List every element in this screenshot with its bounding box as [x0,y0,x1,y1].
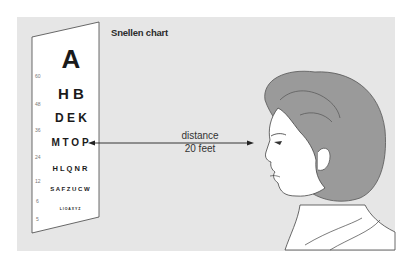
row-label-4: 24 [35,154,41,160]
person-profile-illustration [265,71,395,250]
distance-label-line1: distance [150,130,250,142]
chart-row-3: D E K [49,111,93,125]
chart-row-5: H L Q N R [47,164,93,173]
row-label-7: 5 [36,216,39,222]
chart-title: Snellen chart [111,27,168,38]
row-label-2: 48 [35,101,41,107]
row-label-6: 6 [36,198,39,204]
distance-label: distance 20 feet [150,130,250,155]
chart-row-7: L I O A X Y Z [47,207,93,211]
chart-row-4: M T O P [47,137,93,148]
row-label-5: 12 [35,178,41,184]
chart-row-2: H B [51,85,91,102]
row-label-3: 36 [35,127,41,133]
row-label-1: 60 [35,73,41,79]
chart-row-1: A [56,44,86,75]
chart-row-6: S A F Z U C W [46,186,94,192]
distance-label-line2: 20 feet [150,143,250,155]
